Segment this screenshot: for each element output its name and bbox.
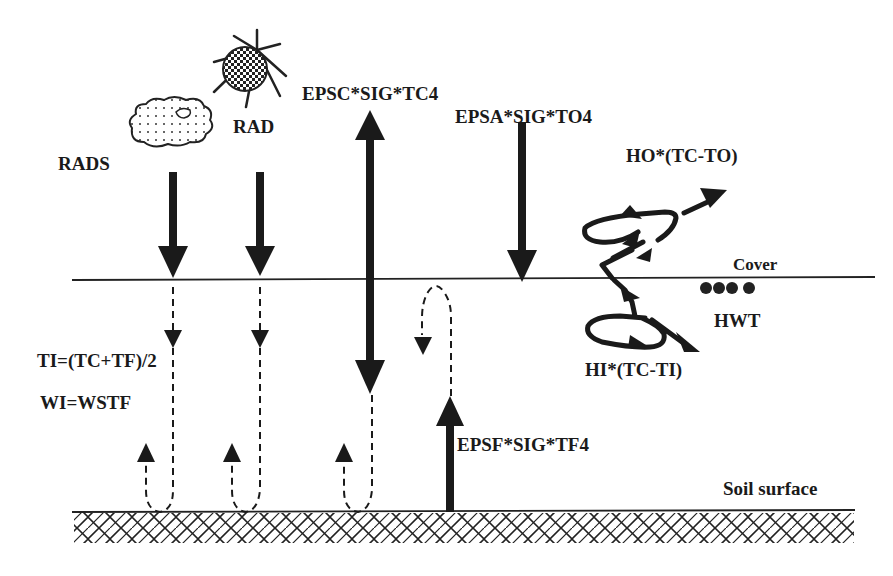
convection-ho-curl [585, 188, 727, 278]
wi-label: WI=WSTF [40, 392, 131, 413]
convection-hi-curl [588, 280, 700, 352]
dashed-paths [137, 286, 451, 512]
hwt-label: HWT [714, 310, 761, 331]
epsc-label: EPSC*SIG*TC4 [302, 83, 439, 104]
soil-surface [72, 510, 855, 543]
epsf-label: EPSF*SIG*TF4 [457, 434, 589, 455]
ti-label: TI=(TC+TF)/2 [37, 350, 157, 372]
ho-label: HO*(TC-TO) [626, 145, 738, 167]
sun-icon [214, 30, 286, 107]
epsa-arrow [507, 122, 537, 282]
hi-label: HI*(TC-TI) [585, 359, 682, 381]
cloud-icon [130, 97, 213, 147]
water-droplets-icon [700, 282, 755, 294]
rads-label: RADS [58, 153, 110, 174]
rad-label: RAD [233, 116, 274, 137]
soil-label: Soil surface [723, 478, 817, 499]
epsc-double-arrow [355, 110, 385, 394]
cover-line [72, 277, 875, 280]
rad-arrow [245, 172, 275, 276]
rads-arrow [158, 172, 188, 278]
cover-label: Cover [733, 255, 778, 274]
energy-balance-diagram: RADS RAD EPSC*SIG*TC4 EPSA*SIG*TO4 HO*(T… [0, 0, 893, 576]
